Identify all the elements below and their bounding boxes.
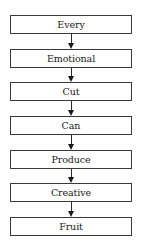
node-can: Can (10, 116, 132, 135)
node-label: Produce (51, 154, 90, 165)
arrow-down-icon (10, 202, 132, 217)
node-fruit: Fruit (10, 217, 132, 236)
arrowhead-icon (68, 43, 74, 49)
node-creative: Creative (10, 183, 132, 202)
node-every: Every (10, 15, 132, 34)
node-cut: Cut (10, 82, 132, 101)
arrow-down-icon (10, 101, 132, 116)
node-emotional: Emotional (10, 49, 132, 68)
node-label: Can (62, 120, 81, 131)
arrow-down-icon (10, 34, 132, 49)
arrowhead-icon (68, 76, 74, 82)
node-label: Fruit (59, 221, 83, 232)
arrowhead-icon (68, 144, 74, 150)
node-label: Cut (63, 86, 80, 97)
node-produce: Produce (10, 150, 132, 169)
arrow-down-icon (10, 135, 132, 150)
arrowhead-icon (68, 211, 74, 217)
arrow-down-icon (10, 169, 132, 184)
node-label: Creative (51, 187, 91, 198)
flowchart: Every Emotional Cut Can Produce Creative (10, 15, 132, 236)
node-label: Every (57, 19, 84, 30)
arrowhead-icon (68, 177, 74, 183)
arrow-down-icon (10, 68, 132, 83)
arrowhead-icon (68, 110, 74, 116)
node-label: Emotional (47, 53, 95, 64)
